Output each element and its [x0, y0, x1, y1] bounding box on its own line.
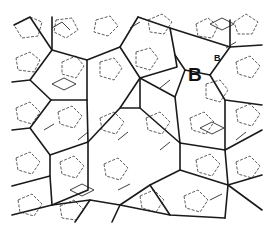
label-large-b: B [188, 64, 202, 85]
bold-superlattice [12, 17, 262, 222]
label-small-b: B [214, 53, 221, 63]
tiling-diagram: B B [0, 0, 273, 230]
tiling-svg: B B [0, 0, 273, 230]
